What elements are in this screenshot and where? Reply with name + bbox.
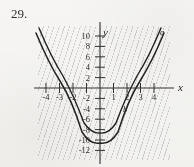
y-tick-label-neg12: -12	[69, 146, 90, 155]
problem-number: 29.	[11, 6, 27, 22]
curve-label-b: b	[123, 104, 127, 114]
plot-area: 10 8 6 4 2 -2 -4 -6 -8 -10 -12 -4 -3 -2 …	[38, 26, 170, 160]
y-tick-label-neg6: -6	[72, 115, 90, 124]
x-tick-label-neg4: -4	[39, 93, 53, 102]
x-tick-label-1: 1	[108, 93, 120, 102]
y-tick-label-10: 10	[76, 32, 90, 41]
y-tick-label-8: 8	[76, 42, 90, 51]
y-axis-label: y	[103, 26, 108, 38]
curve-a	[36, 33, 164, 143]
x-tick-label-4: 4	[148, 93, 160, 102]
figure-root: 29.	[0, 0, 194, 167]
x-tick-label-neg3: -3	[53, 93, 67, 102]
y-tick-label-6: 6	[76, 53, 90, 62]
y-tick-label-2: 2	[76, 74, 90, 83]
x-tick-label-neg2: -2	[66, 93, 80, 102]
curve-label-a: a	[160, 27, 164, 37]
x-tick-label-2: 2	[121, 93, 133, 102]
x-axis-label: x	[178, 81, 183, 93]
y-tick-label-4: 4	[76, 63, 90, 72]
y-tick-label-neg4: -4	[72, 105, 90, 114]
y-tick-label-neg10: -10	[69, 136, 90, 145]
curve-b	[39, 28, 161, 133]
y-tick-label-neg8: -8	[72, 126, 90, 135]
x-tick-label-3: 3	[135, 93, 147, 102]
